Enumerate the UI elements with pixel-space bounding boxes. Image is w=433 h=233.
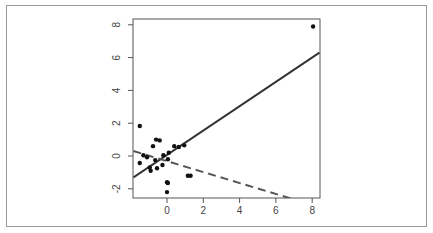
data-point xyxy=(151,144,155,148)
x-tick-label: 8 xyxy=(309,205,315,216)
y-tick-label: 8 xyxy=(111,22,122,28)
scatter-plot: 02468-202468 xyxy=(0,0,433,233)
y-tick-label: 2 xyxy=(111,120,122,126)
data-point xyxy=(311,24,315,28)
data-point xyxy=(154,137,158,141)
x-tick-label: 4 xyxy=(237,205,243,216)
data-point xyxy=(165,190,169,194)
data-point xyxy=(172,144,176,148)
data-point xyxy=(148,165,152,169)
data-point xyxy=(145,155,149,159)
data-point xyxy=(158,138,162,142)
dashed-regression-line xyxy=(133,151,294,199)
data-point xyxy=(166,157,170,161)
data-point xyxy=(155,166,159,170)
data-point xyxy=(188,173,192,177)
data-point xyxy=(177,145,181,149)
x-tick-label: 6 xyxy=(273,205,279,216)
data-point xyxy=(161,153,165,157)
plot-area-frame xyxy=(133,19,320,198)
data-point xyxy=(138,124,142,128)
data-point xyxy=(160,163,164,167)
x-tick-label: 2 xyxy=(201,205,207,216)
y-tick-label: 4 xyxy=(111,87,122,93)
data-point xyxy=(166,181,170,185)
data-point xyxy=(138,161,142,165)
data-point xyxy=(153,158,157,162)
y-tick-label: -2 xyxy=(111,184,122,193)
y-tick-label: 0 xyxy=(111,153,122,159)
data-point xyxy=(182,143,186,147)
y-tick-label: 6 xyxy=(111,54,122,60)
data-point xyxy=(167,151,171,155)
x-tick-label: 0 xyxy=(164,205,170,216)
